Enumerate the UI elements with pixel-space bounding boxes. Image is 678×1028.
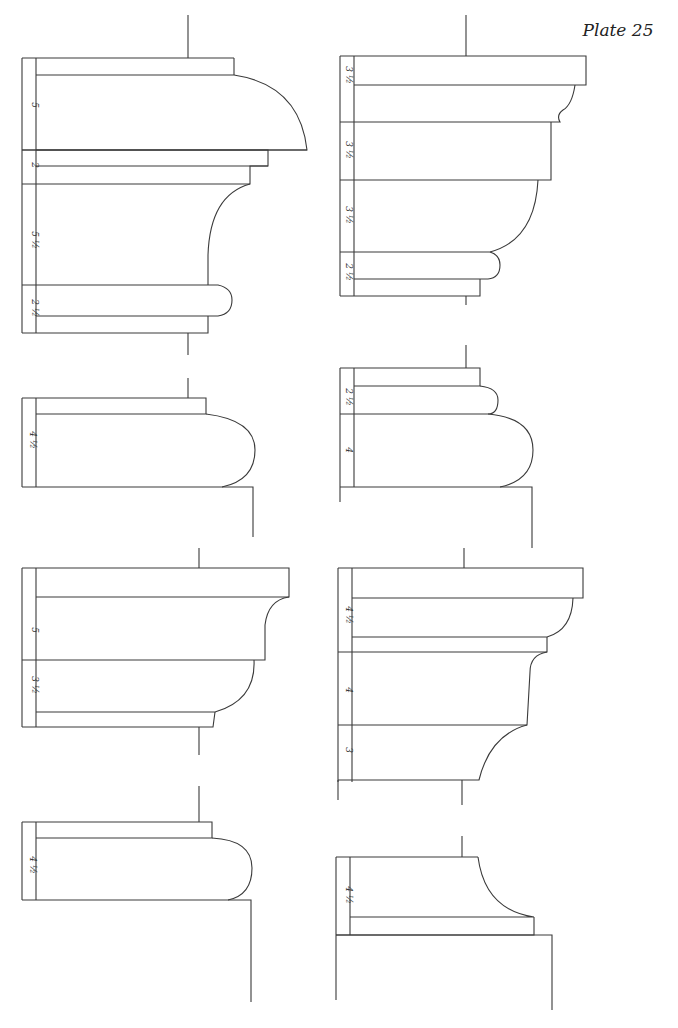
- moulding-profile-7: 4 ½: [22, 786, 252, 1002]
- profile-line: [336, 917, 534, 935]
- profile-line: [22, 398, 206, 414]
- profile-line: [36, 150, 268, 166]
- profile-line: [338, 725, 527, 780]
- profile-line: [36, 660, 254, 712]
- moulding-profile-2: 3 ½3 ½3 ½2 ½: [340, 15, 586, 305]
- profile-line: [350, 857, 534, 917]
- profile-line: [222, 487, 253, 537]
- dimension-label: 4 ½: [28, 430, 38, 448]
- profile-line: [340, 85, 575, 122]
- profile-line: [340, 279, 480, 296]
- dimension-label: 4: [344, 686, 354, 693]
- dimension-label: 3 ½: [344, 141, 354, 158]
- profile-line: [340, 386, 498, 414]
- dimension-label: 3 ½: [344, 66, 354, 83]
- profile-line: [340, 180, 538, 252]
- plate-title: Plate 25: [582, 20, 654, 40]
- dimension-label: 3 ½: [30, 676, 40, 693]
- moulding-profiles: 525 ½2 ½3 ½3 ½3 ½2 ½4 ½2 ½453 ½4 ½434 ½4…: [22, 15, 586, 1010]
- profile-line: [338, 652, 547, 725]
- dimension-label: 2 ½: [344, 262, 354, 280]
- profile-line: [22, 712, 215, 727]
- profile-line: [336, 935, 552, 1010]
- dimension-label: 4 ½: [344, 605, 354, 623]
- profile-line: [340, 368, 480, 386]
- profile-line: [338, 568, 583, 598]
- profile-line: [22, 414, 255, 487]
- dimension-label: 2: [30, 161, 40, 168]
- profile-line: [340, 122, 551, 180]
- dimension-label: 5 ½: [30, 231, 40, 248]
- profile-line: [208, 184, 250, 285]
- moulding-profile-4: 2 ½4: [340, 345, 533, 548]
- moulding-profile-3: 4 ½: [22, 378, 255, 537]
- moulding-profile-8: 4 ½: [336, 836, 552, 1010]
- dimension-label: 2 ½: [344, 387, 354, 405]
- profile-line: [22, 316, 208, 333]
- moulding-profile-1: 525 ½2 ½: [22, 15, 307, 355]
- dimension-label: 4 ½: [28, 855, 38, 873]
- profile-line: [22, 285, 232, 316]
- dimension-label: 4: [344, 446, 354, 453]
- profile-line: [340, 414, 533, 487]
- dimension-label: 2 ½: [30, 298, 40, 316]
- dimension-label: 3 ½: [344, 206, 354, 223]
- profile-line: [22, 75, 307, 150]
- profile-line: [340, 56, 586, 85]
- profile-line: [22, 822, 212, 838]
- profile-line: [352, 598, 573, 637]
- moulding-profile-5: 53 ½: [22, 548, 289, 755]
- plate-drawing: Plate 25 525 ½2 ½3 ½3 ½3 ½2 ½4 ½2 ½453 ½…: [0, 0, 678, 1028]
- profile-line: [22, 597, 289, 660]
- dimension-label: 4 ½: [344, 885, 354, 903]
- profile-line: [228, 900, 251, 1002]
- dimension-label: 5: [30, 102, 40, 108]
- moulding-profile-6: 4 ½43: [338, 548, 583, 805]
- profile-line: [22, 568, 289, 597]
- profile-line: [338, 637, 547, 652]
- profile-line: [500, 487, 532, 548]
- dimension-label: 5: [30, 627, 40, 633]
- profile-line: [354, 252, 500, 279]
- profile-line: [22, 166, 268, 184]
- dimension-label: 3: [344, 747, 354, 753]
- profile-line: [22, 838, 252, 900]
